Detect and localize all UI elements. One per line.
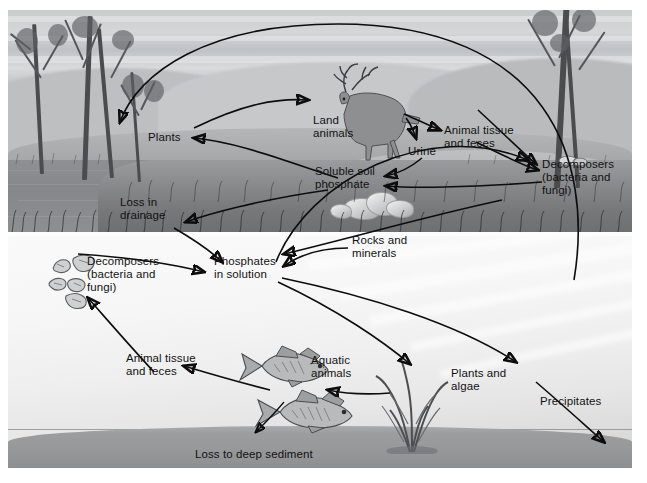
label-rocks-and-minerals: Rocks and minerals bbox=[352, 234, 407, 260]
arrow-algae-to-plants bbox=[120, 24, 578, 280]
flow-arrows-layer bbox=[8, 10, 632, 468]
arrow-algae-to-fish bbox=[328, 390, 390, 394]
arrow-solution-to-algae bbox=[278, 282, 410, 364]
label-urine: Urine bbox=[408, 145, 436, 158]
label-plants: Plants bbox=[148, 131, 181, 144]
label-soluble-soil-phosphate: Soluble soil phosphate bbox=[315, 165, 375, 191]
label-plants-and-algae: Plants and algae bbox=[451, 367, 506, 393]
label-land-animals: Land animals bbox=[313, 114, 353, 140]
arrow-urine-to-soil bbox=[386, 158, 422, 176]
arrow-soil-to-drainage bbox=[186, 190, 328, 222]
label-animal-tissue-feces-land: Animal tissue and feces bbox=[444, 124, 514, 150]
arrow-fish-to-tissue bbox=[184, 366, 270, 390]
label-phosphates-in-solution: Phosphates in solution bbox=[214, 255, 276, 281]
label-aquatic-animals: Aquatic animals bbox=[311, 354, 351, 380]
arrow-plants-to-animals bbox=[194, 100, 308, 128]
arrow-precipitates-to-sediment bbox=[536, 382, 604, 442]
arrow-animals-to-urine bbox=[406, 118, 416, 138]
arrow-decomposers-to-soil bbox=[386, 182, 542, 187]
label-loss-in-drainage: Loss in drainage bbox=[120, 196, 166, 222]
label-animal-tissue-feces-water: Animal tissue and feces bbox=[126, 352, 196, 378]
illustration-frame: Plants Land animals Urine Animal tissue … bbox=[8, 10, 632, 468]
arrow-solution-to-precipitates bbox=[282, 278, 516, 362]
label-decomposers-land: Decomposers (bacteria and fungi) bbox=[542, 158, 614, 197]
label-decomposers-water: Decomposers (bacteria and fungi) bbox=[87, 255, 159, 294]
arrow-fish-to-sediment bbox=[256, 402, 284, 432]
label-loss-to-deep-sediment: Loss to deep sediment bbox=[195, 448, 313, 461]
figure-canvas: Plants Land animals Urine Animal tissue … bbox=[0, 0, 647, 483]
arrow-rocks-to-solution bbox=[284, 248, 348, 266]
label-precipitates: Precipitates bbox=[540, 395, 601, 408]
